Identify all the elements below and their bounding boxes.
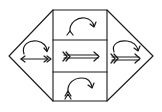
hexagon-arrow-diagram	[0, 0, 162, 112]
curved-arrow-icon	[65, 78, 94, 99]
top-cell-region	[67, 18, 96, 35]
left-triangle-region	[21, 41, 51, 62]
curved-arrow-icon	[67, 18, 96, 35]
curved-arrow-icon	[23, 41, 49, 54]
left-triangle-edges	[9, 10, 53, 101]
double-right-arrow-icon	[63, 52, 99, 61]
left-arrow-icon	[21, 56, 51, 62]
bottom-cell-region	[65, 78, 94, 99]
double-right-arrow-icon	[111, 54, 140, 63]
middle-cell-region	[63, 52, 99, 61]
curved-arrow-icon	[113, 41, 140, 52]
right-triangle-region	[111, 41, 140, 63]
right-triangle-edges	[107, 10, 153, 101]
